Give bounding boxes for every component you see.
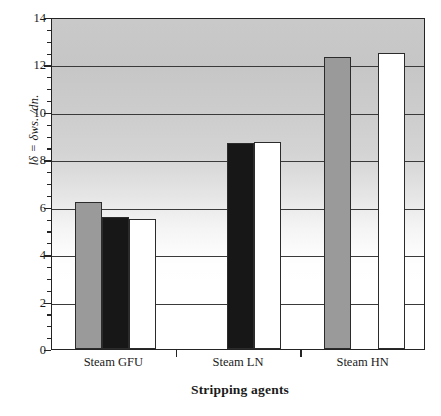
y-minor-tick: [47, 326, 51, 327]
y-minor-tick: [47, 30, 51, 31]
x-tick-label: Steam HN: [300, 354, 425, 370]
bar: [227, 143, 254, 349]
y-tick-label: 4: [18, 249, 46, 261]
y-minor-tick: [47, 77, 51, 78]
y-minor-tick: [47, 314, 51, 315]
y-minor-tick: [47, 267, 51, 268]
x-category-tick: [176, 350, 177, 357]
y-tick-label: 14: [18, 12, 46, 24]
y-minor-tick: [47, 54, 51, 55]
y-tick-label: 10: [18, 107, 46, 119]
y-minor-tick: [47, 291, 51, 292]
bar: [129, 219, 156, 349]
y-major-tick: [44, 65, 51, 66]
y-minor-tick: [47, 196, 51, 197]
y-minor-tick: [47, 42, 51, 43]
y-minor-tick: [47, 172, 51, 173]
y-tick-label: 8: [18, 154, 46, 166]
plot-area: [51, 18, 425, 350]
y-minor-tick: [47, 184, 51, 185]
y-axis-tick-labels: 02468101214: [18, 0, 46, 416]
y-minor-tick: [47, 148, 51, 149]
gridline: [52, 114, 424, 115]
x-tick-label: Steam LN: [176, 354, 301, 370]
gridline: [52, 66, 424, 67]
y-minor-tick: [47, 137, 51, 138]
bar: [254, 142, 281, 350]
x-axis-title: Stripping agents: [50, 382, 430, 398]
y-minor-tick: [47, 243, 51, 244]
y-minor-tick: [47, 279, 51, 280]
x-category-tick: [300, 350, 301, 357]
y-major-tick: [44, 113, 51, 114]
bar: [324, 57, 351, 349]
y-tick-label: 0: [18, 344, 46, 356]
y-tick-label: 2: [18, 297, 46, 309]
y-minor-tick: [47, 231, 51, 232]
bar-chart-figure: lδ = δws. /dn. 02468101214 Steam GFUStea…: [0, 0, 441, 416]
y-major-tick: [44, 18, 51, 19]
y-minor-tick: [47, 338, 51, 339]
y-major-tick: [44, 350, 51, 351]
bar: [75, 202, 102, 349]
y-minor-tick: [47, 101, 51, 102]
bar: [102, 217, 129, 349]
y-tick-label: 6: [18, 202, 46, 214]
x-tick-label: Steam GFU: [51, 354, 176, 370]
y-minor-tick: [47, 125, 51, 126]
y-minor-tick: [47, 220, 51, 221]
y-minor-tick: [47, 89, 51, 90]
y-major-tick: [44, 160, 51, 161]
bar: [378, 53, 405, 349]
y-major-tick: [44, 208, 51, 209]
y-major-tick: [44, 303, 51, 304]
y-major-tick: [44, 255, 51, 256]
y-tick-label: 12: [18, 59, 46, 71]
